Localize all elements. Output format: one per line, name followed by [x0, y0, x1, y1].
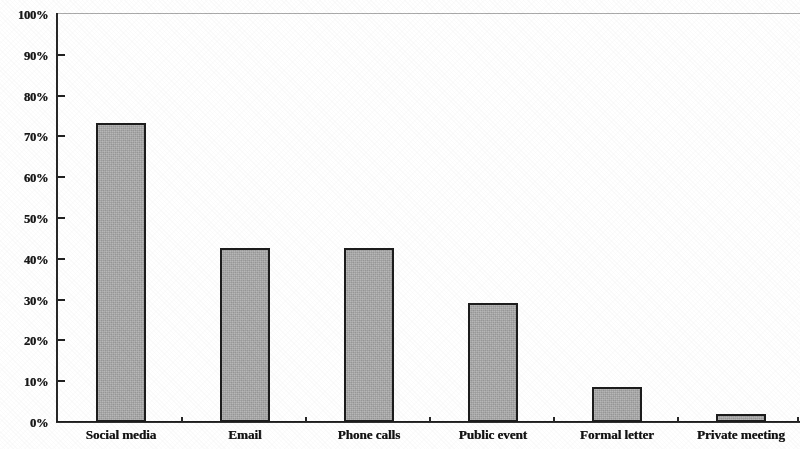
bar	[220, 248, 270, 422]
x-axis-category-label: Email	[228, 428, 261, 442]
x-axis-category-label: Private meeting	[697, 428, 785, 442]
bar	[96, 123, 146, 422]
x-axis-category-label: Phone calls	[338, 428, 401, 442]
bar	[592, 387, 642, 422]
x-axis-category-label: Public event	[459, 428, 527, 442]
bar-chart: 100% 90% 80% 70% 60% 50% 40% 30% 20% 10%…	[0, 0, 800, 449]
x-axis-category-label: Formal letter	[580, 428, 654, 442]
bar	[468, 303, 518, 422]
bar	[344, 248, 394, 422]
plot-area: Social mediaEmailPhone callsPublic event…	[0, 0, 800, 449]
x-axis-category-label: Social media	[86, 428, 156, 442]
bar	[716, 414, 766, 422]
